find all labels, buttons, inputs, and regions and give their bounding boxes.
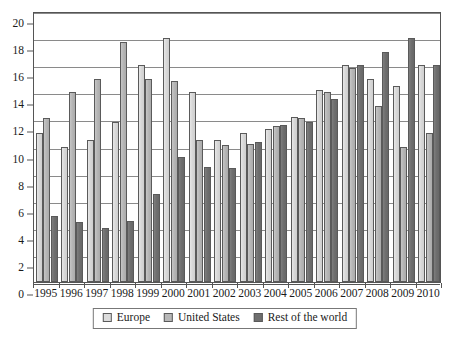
bar-group	[391, 13, 417, 282]
y-tick-label: 16	[13, 72, 25, 84]
legend-item-label: United States	[178, 312, 240, 324]
bar	[214, 140, 221, 282]
bar-group	[213, 13, 239, 282]
bar	[408, 38, 415, 282]
x-tick-label: 2005	[289, 288, 312, 300]
bar	[265, 129, 272, 282]
x-tick-mark	[441, 283, 442, 288]
bar-chart: 02468101214161820 1995199619971998199920…	[0, 0, 450, 338]
bar	[120, 42, 127, 282]
x-tick-label: 2007	[340, 288, 363, 300]
bar	[316, 90, 323, 282]
x-tick-label: 2004	[264, 288, 287, 300]
bar	[306, 122, 313, 282]
bar	[291, 117, 298, 282]
bar	[280, 125, 287, 282]
bar	[375, 106, 382, 282]
bar	[43, 118, 50, 282]
y-tick-label: 6	[18, 208, 24, 220]
x-tick-label: 2010	[417, 288, 440, 300]
bar-group	[85, 13, 111, 282]
bar	[418, 65, 425, 282]
bar	[189, 92, 196, 282]
bar	[87, 140, 94, 282]
bar	[433, 65, 440, 282]
bar-group	[315, 13, 341, 282]
bar	[69, 92, 76, 282]
x-axis: 1995199619971998199920002001200220032004…	[33, 283, 441, 305]
y-tick-label: 14	[13, 100, 25, 112]
y-tick-label: 20	[13, 18, 25, 30]
bar	[400, 147, 407, 283]
x-tick-label: 1997	[85, 288, 108, 300]
bar-group	[417, 13, 443, 282]
y-tick-label: 8	[18, 181, 24, 193]
bar	[229, 168, 236, 282]
y-tick-label: 2	[18, 262, 24, 274]
bar	[298, 118, 305, 282]
bar	[102, 228, 109, 282]
bar	[153, 194, 160, 282]
bar	[76, 222, 83, 282]
bar-group	[238, 13, 264, 282]
legend: EuropeUnited StatesRest of the world	[93, 308, 357, 329]
bar	[324, 92, 331, 282]
bar-group	[60, 13, 86, 282]
bar	[255, 142, 262, 282]
bar-group	[136, 13, 162, 282]
y-tick-label: 0	[18, 289, 24, 301]
y-tick-label: 18	[13, 45, 25, 57]
bar	[204, 167, 211, 282]
bar	[367, 79, 374, 282]
bar	[342, 65, 349, 282]
x-tick-label: 2001	[187, 288, 210, 300]
x-tick-label: 2002	[213, 288, 236, 300]
bar	[127, 221, 134, 282]
x-tick-label: 1998	[111, 288, 134, 300]
bar	[393, 86, 400, 282]
bars-layer	[34, 13, 440, 282]
bar-group	[162, 13, 188, 282]
legend-swatch-icon	[164, 313, 173, 322]
bar-group	[366, 13, 392, 282]
bar-group	[340, 13, 366, 282]
bar	[36, 133, 43, 282]
bar-group	[289, 13, 315, 282]
bar	[222, 145, 229, 282]
bar	[163, 38, 170, 282]
y-tick-label: 10	[13, 154, 25, 166]
bar	[247, 144, 254, 282]
bar	[240, 133, 247, 282]
bar-group	[34, 13, 60, 282]
y-axis: 02468101214161820	[0, 12, 33, 283]
bar	[94, 79, 101, 282]
bar	[112, 122, 119, 282]
x-tick-label: 2008	[366, 288, 389, 300]
y-tick-label: 4	[18, 235, 24, 247]
legend-swatch-icon	[254, 313, 263, 322]
legend-item: Rest of the world	[254, 312, 348, 324]
bar-group	[111, 13, 137, 282]
plot-area	[33, 12, 441, 283]
bar	[138, 65, 145, 282]
bar	[178, 157, 185, 282]
x-tick-label: 1996	[60, 288, 83, 300]
x-tick-label: 2000	[162, 288, 185, 300]
bar	[273, 126, 280, 282]
bar	[196, 140, 203, 282]
bar-group	[187, 13, 213, 282]
legend-item-label: Rest of the world	[268, 312, 348, 324]
bar	[426, 133, 433, 282]
bar	[331, 99, 338, 282]
y-tick-label: 12	[13, 127, 25, 139]
x-tick-label: 2006	[315, 288, 338, 300]
bar	[51, 216, 58, 282]
x-tick-label: 2009	[391, 288, 414, 300]
x-tick-label: 1995	[34, 288, 57, 300]
bar	[357, 65, 364, 282]
legend-item: United States	[164, 312, 240, 324]
legend-swatch-icon	[103, 313, 112, 322]
legend-item: Europe	[103, 312, 150, 324]
bar	[349, 68, 356, 282]
x-tick-label: 1999	[136, 288, 159, 300]
